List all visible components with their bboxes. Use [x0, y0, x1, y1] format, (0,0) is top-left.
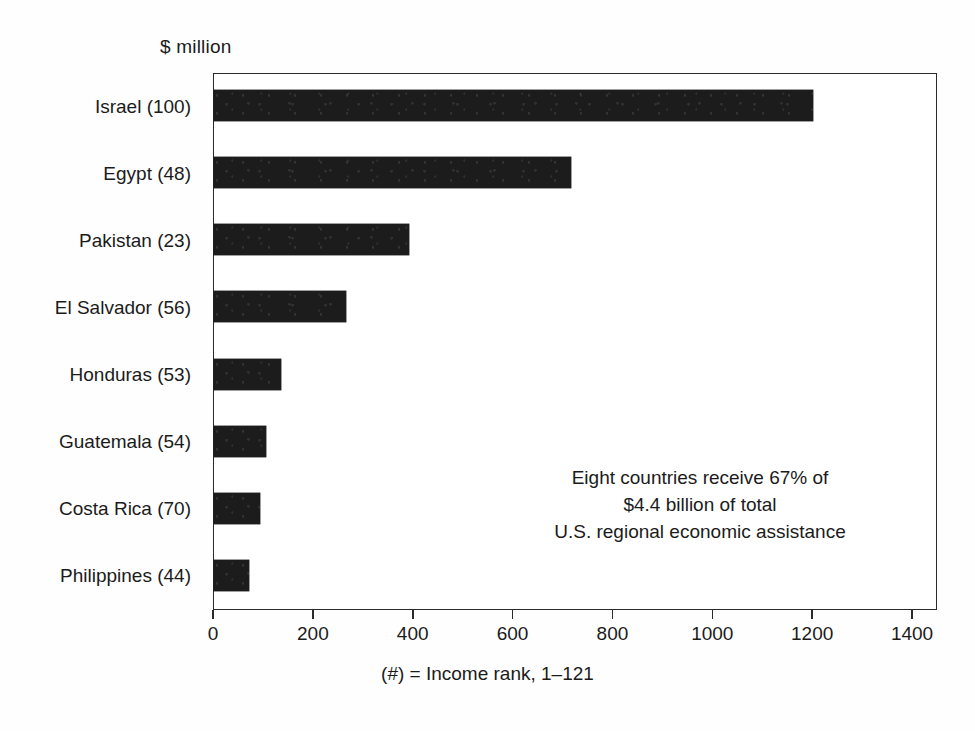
bar-pakistan[interactable]	[214, 224, 409, 255]
annotation-line: Eight countries receive 67% of	[520, 465, 880, 492]
category-label: Philippines (44)	[0, 566, 202, 585]
tick-mark	[712, 610, 714, 619]
x-tick-label: 200	[297, 623, 329, 645]
tick-mark	[412, 610, 414, 619]
x-tick-label: 0	[208, 623, 219, 645]
bar-el-salvador[interactable]	[214, 291, 346, 322]
x-tick-label: 1400	[891, 623, 933, 645]
tick-mark	[911, 610, 913, 619]
category-label: Israel (100)	[0, 97, 202, 116]
bar-costa-rica[interactable]	[214, 493, 260, 524]
axis-unit-label: $ million	[160, 36, 232, 58]
x-tick-label: 600	[497, 623, 529, 645]
tick-mark	[612, 610, 614, 619]
bar-philippines[interactable]	[214, 560, 249, 591]
chart-footnote: (#) = Income rank, 1–121	[0, 663, 975, 685]
x-tick-label: 1000	[691, 623, 733, 645]
x-axis-ticks: 0 200 400 600 800 1000 1200 1400	[213, 610, 937, 650]
x-tick-label: 400	[397, 623, 429, 645]
bar-chart-figure: $ million Israel (100) Egypt (48) Pakist…	[0, 0, 975, 731]
category-label: Egypt (48)	[0, 164, 202, 183]
category-label: Guatemala (54)	[0, 432, 202, 451]
bar-honduras[interactable]	[214, 359, 281, 390]
category-label: El Salvador (56)	[0, 298, 202, 317]
category-label: Honduras (53)	[0, 365, 202, 384]
annotation-line: U.S. regional economic assistance	[520, 519, 880, 546]
tick-mark	[811, 610, 813, 619]
annotation-line: $4.4 billion of total	[520, 492, 880, 519]
tick-mark	[212, 610, 214, 619]
x-tick-label: 1200	[791, 623, 833, 645]
chart-annotation: Eight countries receive 67% of $4.4 bill…	[520, 465, 880, 546]
tick-mark	[512, 610, 514, 619]
bar-guatemala[interactable]	[214, 426, 266, 457]
category-label: Costa Rica (70)	[0, 499, 202, 518]
tick-mark	[312, 610, 314, 619]
category-label: Pakistan (23)	[0, 231, 202, 250]
bar-israel[interactable]	[214, 90, 813, 121]
category-axis-labels: Israel (100) Egypt (48) Pakistan (23) El…	[0, 73, 202, 610]
x-tick-label: 800	[597, 623, 629, 645]
bar-egypt[interactable]	[214, 157, 571, 188]
